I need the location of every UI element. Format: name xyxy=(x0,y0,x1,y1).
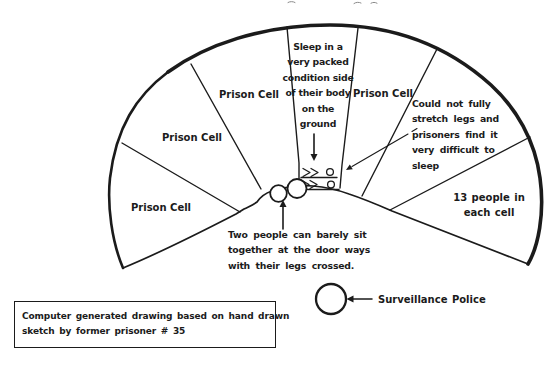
doorway-note: Two people can barely sit together at th… xyxy=(228,227,370,273)
figure-canvas: Prison Cell Prison Cell Prison Cell Pris… xyxy=(0,0,560,368)
caption-text: Computer generated drawing based on hand… xyxy=(22,309,289,340)
surveillance-arrow xyxy=(347,296,373,303)
surveillance-circle xyxy=(316,284,346,314)
cropped-text-artifact xyxy=(288,2,377,4)
caption-box: Computer generated drawing based on hand… xyxy=(14,301,276,348)
surveillance-police-label: Surveillance Police xyxy=(378,293,486,306)
prison-cell-label-3: Prison Cell xyxy=(219,87,279,102)
up-arrow xyxy=(280,200,287,229)
prison-cell-label-4: Prison Cell xyxy=(353,86,413,101)
cell-capacity-note: 13 people in each cell xyxy=(453,190,525,221)
prison-cell-label-1: Prison Cell xyxy=(131,200,191,215)
down-arrow xyxy=(311,134,318,161)
stretch-note-arrow xyxy=(346,129,417,171)
sleep-condition-note: Sleep in a very packed condition side of… xyxy=(282,39,353,131)
stretch-legs-note: Could not fully stretch legs and prisone… xyxy=(412,96,499,173)
divider-line-2 xyxy=(191,64,261,189)
doorway-people-circles xyxy=(270,179,306,202)
prison-cell-label-2: Prison Cell xyxy=(162,130,222,145)
